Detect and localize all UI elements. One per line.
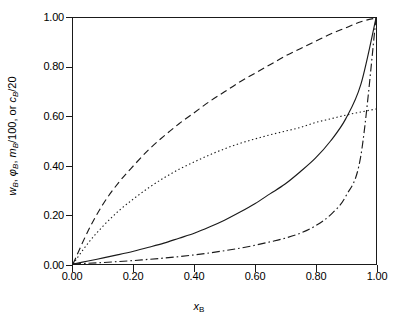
y-tick-label: 0.80: [20, 61, 64, 72]
x-tick-label: 0.60: [232, 271, 278, 282]
curves-svg: [73, 18, 376, 264]
chart-figure: 1.00 0.80 0.60 0.40 0.20 0.00 0.00 0.20 …: [0, 0, 398, 331]
y-axis-title-phi: φ: [6, 169, 18, 176]
y-tick-label: 0.20: [20, 210, 64, 221]
y-axis-title-c-sub: B: [11, 92, 20, 97]
y-axis-title-sep1: ,: [6, 176, 18, 182]
x-tick-label: 0.00: [49, 271, 95, 282]
y-tick-label: 0.60: [20, 111, 64, 122]
x-tick-label: 1.00: [354, 271, 398, 282]
y-tick-label: 0.00: [20, 260, 64, 271]
curve-layer: [73, 18, 376, 264]
x-tick-label: 0.80: [293, 271, 339, 282]
x-axis-title-x-sub: B: [199, 305, 204, 314]
plot-frame: [72, 17, 377, 265]
y-axis-title-m-div: /100, or: [6, 103, 18, 143]
y-axis-title-sep2: ,: [6, 157, 18, 163]
y-axis-title-c-div: /20: [6, 76, 18, 91]
curve-c-b-20: [73, 109, 376, 264]
y-axis-title-w-sub: B: [11, 182, 20, 187]
y-tick-label: 1.00: [20, 12, 64, 23]
y-axis-title-m-sub: B: [11, 143, 20, 148]
x-axis-title: xB: [0, 300, 398, 316]
y-tick-label: 0.40: [20, 161, 64, 172]
curve-w-b: [73, 18, 376, 264]
y-axis-title-w: w: [6, 188, 18, 196]
x-tick-label: 0.40: [171, 271, 217, 282]
y-axis-title-m: m: [6, 148, 18, 157]
y-axis-title: wB, φB, mB/100, or cB/20: [6, 24, 22, 248]
y-axis-title-phi-sub: B: [11, 164, 20, 169]
y-axis-title-c: c: [6, 97, 18, 103]
x-tick-label: 0.20: [110, 271, 156, 282]
